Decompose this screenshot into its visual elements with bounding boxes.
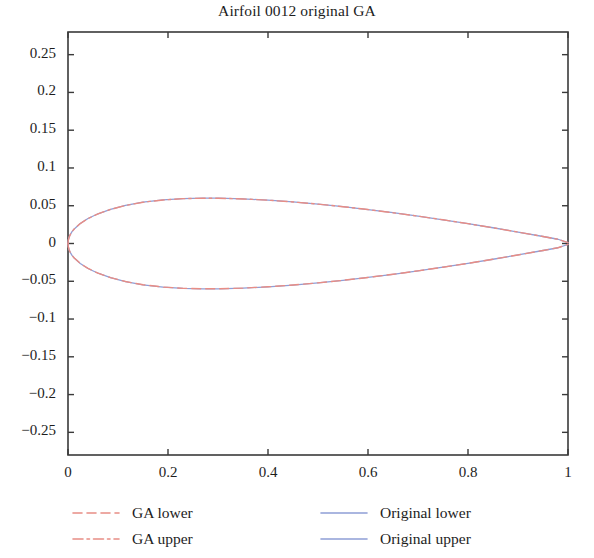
- x-tick-label: 0.8: [428, 464, 508, 481]
- data-curves: [68, 198, 568, 289]
- curve-ga-upper: [68, 198, 568, 243]
- legend-label-ga-lower: GA lower: [132, 504, 193, 522]
- y-tick-label: 0.05: [0, 196, 56, 213]
- x-tick-label: 1: [528, 464, 594, 481]
- y-tick-label: −0.1: [0, 309, 56, 326]
- y-tick-label: −0.05: [0, 271, 56, 288]
- legend-swatch-ga-lower: [72, 506, 120, 520]
- legend-item-ga-lower[interactable]: GA lower: [72, 500, 193, 526]
- figure-canvas: Airfoil 0012 original GA 0.250.20.150.10…: [0, 0, 594, 558]
- legend-item-ga-upper[interactable]: GA upper: [72, 526, 193, 552]
- legend-swatch-original-lower: [320, 506, 368, 520]
- x-tick-label: 0.2: [128, 464, 208, 481]
- x-tick-label: 0: [28, 464, 108, 481]
- axes-frame: [68, 32, 568, 455]
- legend-swatch-ga-upper: [72, 532, 120, 546]
- y-tick-label: −0.25: [0, 422, 56, 439]
- y-tick-label: −0.2: [0, 385, 56, 402]
- y-tick-label: −0.15: [0, 347, 56, 364]
- legend-label-original-upper: Original upper: [380, 530, 471, 548]
- x-tick-label: 0.4: [228, 464, 308, 481]
- x-tick-label: 0.6: [328, 464, 408, 481]
- curve-original-upper: [68, 198, 568, 243]
- legend-item-original-lower[interactable]: Original lower: [320, 500, 471, 526]
- curve-ga-lower: [68, 244, 568, 289]
- y-tick-label: 0.1: [0, 158, 56, 175]
- axis-ticks: [68, 32, 568, 455]
- curve-original-lower: [68, 244, 568, 289]
- legend-column-right: Original lower Original upper: [320, 500, 471, 552]
- legend-column-left: GA lower GA upper: [72, 500, 193, 552]
- y-tick-label: 0.2: [0, 82, 56, 99]
- y-tick-label: 0: [0, 234, 56, 251]
- chart-legend: GA lower GA upper Original lower Origina…: [72, 500, 572, 556]
- y-tick-label: 0.15: [0, 120, 56, 137]
- y-tick-label: 0.25: [0, 45, 56, 62]
- legend-item-original-upper[interactable]: Original upper: [320, 526, 471, 552]
- legend-label-ga-upper: GA upper: [132, 530, 193, 548]
- legend-swatch-original-upper: [320, 532, 368, 546]
- legend-label-original-lower: Original lower: [380, 504, 471, 522]
